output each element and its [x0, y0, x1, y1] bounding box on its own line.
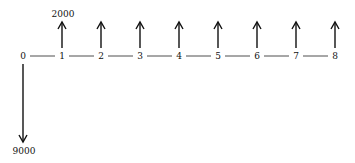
period-label-7: 7 — [293, 51, 299, 61]
period-label-4: 4 — [176, 51, 182, 61]
up-arrow-icon — [58, 22, 66, 48]
inflow-amount-label: 2000 — [52, 9, 75, 19]
up-arrow-icon — [253, 22, 261, 48]
outflow-arrow — [19, 64, 27, 142]
down-arrow-icon — [19, 64, 27, 142]
period-label-5: 5 — [215, 51, 221, 61]
period-label-2: 2 — [98, 51, 104, 61]
up-arrow-icon — [214, 22, 222, 48]
up-arrow-icon — [331, 22, 339, 48]
period-label-6: 6 — [254, 51, 260, 61]
cash-flow-diagram: 0 1 2 3 4 5 6 7 8 2000 9000 — [0, 0, 355, 163]
up-arrow-icon — [175, 22, 183, 48]
period-label-8: 8 — [332, 51, 338, 61]
period-label-0: 0 — [20, 51, 26, 61]
up-arrow-icon — [292, 22, 300, 48]
outflow-amount-label: 9000 — [13, 146, 36, 156]
inflow-arrows — [58, 22, 339, 48]
up-arrow-icon — [136, 22, 144, 48]
period-label-1: 1 — [59, 51, 65, 61]
period-label-3: 3 — [137, 51, 143, 61]
cash-flow-diagram-canvas — [0, 0, 355, 163]
up-arrow-icon — [97, 22, 105, 48]
